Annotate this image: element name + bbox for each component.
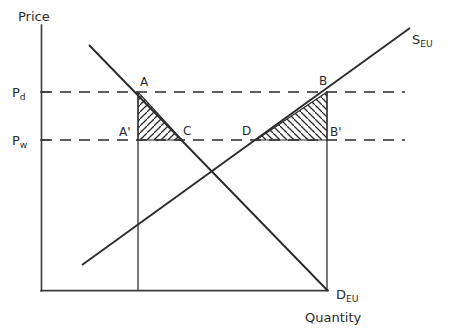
diagram-canvas: Price Quantity Pd Pw SEU DEU A A' C D B … bbox=[0, 0, 458, 330]
supply-demand-diagram: Price Quantity Pd Pw SEU DEU A A' C D B … bbox=[0, 0, 458, 330]
supply-curve-label: SEU bbox=[412, 32, 433, 49]
point-label-B: B bbox=[319, 74, 327, 88]
point-label-Bprime: B' bbox=[330, 125, 342, 139]
y-axis-label: Price bbox=[18, 9, 50, 24]
point-label-A: A bbox=[140, 75, 149, 89]
price-label-pd: Pd bbox=[12, 85, 26, 102]
point-label-Aprime: A' bbox=[119, 125, 131, 139]
price-label-pw: Pw bbox=[12, 133, 28, 150]
demand-curve-label: DEU bbox=[336, 287, 359, 304]
supply-curve bbox=[82, 28, 410, 265]
point-label-D: D bbox=[242, 124, 251, 138]
demand-curve bbox=[89, 45, 328, 291]
x-axis-label: Quantity bbox=[305, 310, 361, 325]
point-label-C: C bbox=[183, 124, 191, 138]
